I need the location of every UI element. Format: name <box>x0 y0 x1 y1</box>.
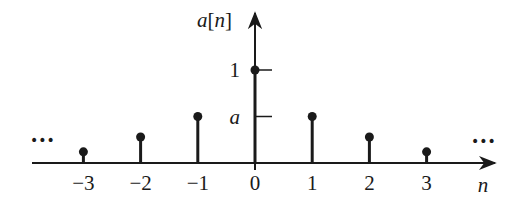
x-tick-labels: −3−2−10123 <box>72 171 432 195</box>
stem-marker <box>136 132 145 141</box>
stem-marker <box>308 112 317 121</box>
y-tick-label: 1 <box>230 58 241 82</box>
stems <box>79 66 431 164</box>
y-tick-label: a <box>230 105 241 129</box>
y-axis-label: a[n] <box>197 8 232 32</box>
stem-marker <box>193 112 202 121</box>
x-tick-label: −2 <box>129 171 151 195</box>
stem-marker <box>422 147 431 156</box>
stem-marker <box>251 66 260 75</box>
x-tick-label: 3 <box>421 171 432 195</box>
x-tick-label: 0 <box>250 171 261 195</box>
x-tick-label: −1 <box>187 171 209 195</box>
x-tick-label: 2 <box>364 171 375 195</box>
x-tick-label: −3 <box>72 171 94 195</box>
left-ellipsis: ••• <box>30 132 55 148</box>
stem-marker <box>365 132 374 141</box>
x-tick-label: 1 <box>307 171 318 195</box>
stem-plot: 1a −3−2−10123 a[n] n ••• ••• <box>0 0 521 203</box>
x-axis-label: n <box>478 173 489 197</box>
stem-marker <box>79 147 88 156</box>
right-ellipsis: ••• <box>471 133 496 149</box>
